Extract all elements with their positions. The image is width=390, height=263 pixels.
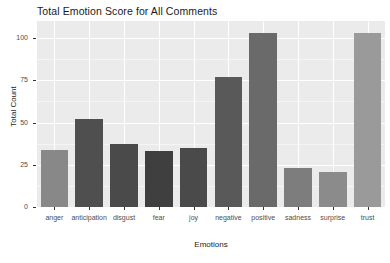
- x-tick-mark: [333, 207, 334, 210]
- x-axis-title: Emotions: [37, 240, 385, 249]
- y-tick-label: 50: [0, 119, 28, 126]
- x-tick-mark: [89, 207, 90, 210]
- bar-anger: [41, 150, 69, 208]
- bar-positive: [249, 33, 277, 207]
- x-tick-mark: [228, 207, 229, 210]
- bar-surprise: [319, 172, 347, 208]
- y-tick-label: 75: [0, 76, 28, 83]
- chart-title: Total Emotion Score for All Comments: [37, 5, 217, 17]
- bar-joy: [180, 148, 208, 207]
- y-tick-mark: [33, 123, 36, 124]
- x-tick-label-fear: fear: [153, 214, 165, 221]
- bar-sadness: [284, 168, 312, 207]
- x-tick-mark: [159, 207, 160, 210]
- y-tick-label: 25: [0, 161, 28, 168]
- bar-negative: [215, 77, 243, 207]
- y-tick-mark: [33, 80, 36, 81]
- y-tick-mark: [33, 165, 36, 166]
- x-tick-mark: [263, 207, 264, 210]
- bar-fear: [145, 151, 173, 207]
- plot-panel: [37, 21, 385, 207]
- x-tick-label-joy: joy: [189, 214, 198, 221]
- y-tick-mark: [33, 38, 36, 39]
- x-tick-mark: [124, 207, 125, 210]
- y-tick-label: 0: [0, 203, 28, 210]
- x-tick-label-disgust: disgust: [113, 214, 135, 221]
- x-tick-label-negative: negative: [215, 214, 241, 221]
- x-tick-mark: [54, 207, 55, 210]
- x-tick-mark: [298, 207, 299, 210]
- x-tick-label-sadness: sadness: [285, 214, 311, 221]
- x-tick-mark: [368, 207, 369, 210]
- x-tick-label-surprise: surprise: [320, 214, 345, 221]
- x-tick-label-anger: anger: [45, 214, 63, 221]
- bar-anticipation: [75, 119, 103, 207]
- bar-trust: [354, 33, 382, 207]
- y-tick-label: 100: [0, 34, 28, 41]
- bar-chart: Total Emotion Score for All Comments Tot…: [0, 0, 390, 263]
- x-tick-label-positive: positive: [251, 214, 275, 221]
- bar-disgust: [110, 144, 138, 207]
- x-tick-label-anticipation: anticipation: [71, 214, 106, 221]
- x-tick-label-trust: trust: [361, 214, 375, 221]
- y-tick-mark: [33, 207, 36, 208]
- x-tick-mark: [194, 207, 195, 210]
